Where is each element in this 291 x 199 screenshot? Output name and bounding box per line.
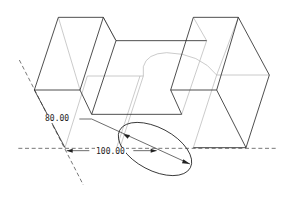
visible-edges: [34, 17, 269, 186]
cad-drawing: 80.00 100.00: [0, 0, 291, 199]
dimension-lines: [67, 119, 190, 164]
distance-dimension[interactable]: 100.00: [95, 147, 126, 156]
arrowheads: [67, 134, 190, 164]
diameter-dimension[interactable]: 80.00: [44, 114, 70, 123]
hidden-edges: [58, 17, 269, 147]
part-drawing: [0, 0, 291, 199]
